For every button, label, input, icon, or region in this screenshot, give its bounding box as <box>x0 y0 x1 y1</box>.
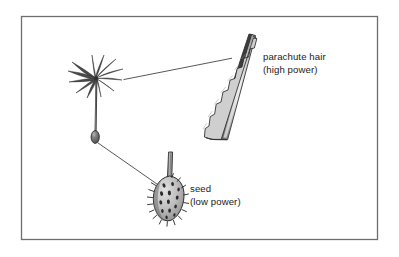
parachute-hair-magnified <box>203 34 257 140</box>
leader-line-parachute-hair <box>124 58 233 79</box>
label-parachute-hair-line2: (high power) <box>263 64 318 75</box>
pappus-hub <box>94 76 98 80</box>
label-parachute-hair: parachute hair (high power) <box>263 51 326 75</box>
achene-small <box>91 131 99 144</box>
illustration-canvas: parachute hair (high power) seed (low po… <box>0 0 399 257</box>
label-parachute-hair-line1: parachute hair <box>263 51 326 62</box>
label-seed-line1: seed <box>190 183 211 194</box>
label-seed: seed (low power) <box>190 183 241 207</box>
leader-line-seed <box>98 143 161 187</box>
pappus-parachute-whole <box>68 55 123 143</box>
figure-container: parachute hair (high power) seed (low po… <box>0 0 399 257</box>
label-seed-line2: (low power) <box>190 196 241 207</box>
seed-magnified <box>147 152 188 226</box>
